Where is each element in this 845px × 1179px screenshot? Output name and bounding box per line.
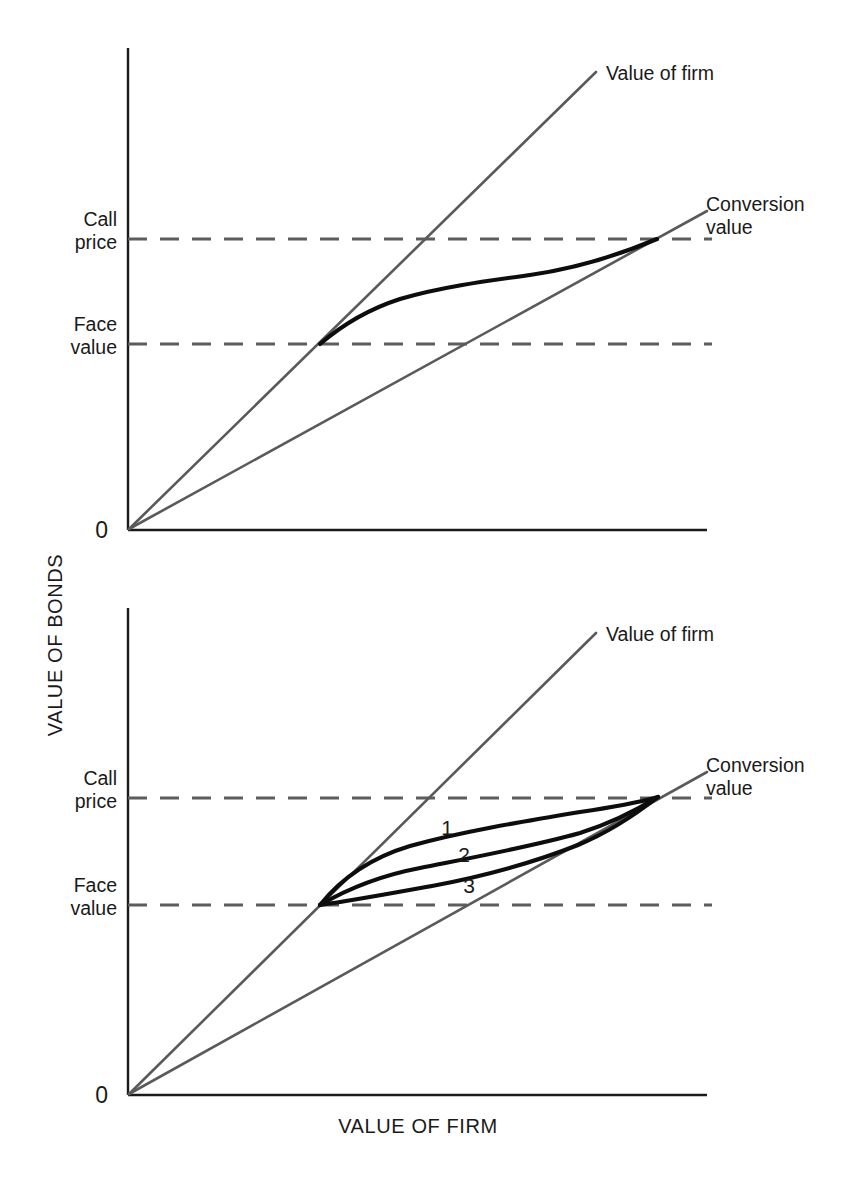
bottom-panel-curve-label-2: 2	[458, 843, 470, 866]
top-panel-value-of-firm-label: Value of firm	[606, 62, 714, 84]
bottom-panel-call-price-label-line2: price	[75, 790, 117, 812]
bottom-panel: 1 2 3 0 Call price Face value Value of f…	[70, 608, 804, 1108]
bottom-panel-origin-label: 0	[95, 1082, 108, 1108]
top-panel-origin-label: 0	[95, 517, 108, 543]
bottom-panel-conversion-value-label-line2: value	[706, 777, 753, 799]
x-axis-title: VALUE OF FIRM	[338, 1115, 498, 1137]
bottom-panel-value-of-firm-label: Value of firm	[606, 623, 714, 645]
top-panel-call-price-label-line1: Call	[83, 208, 117, 230]
bottom-panel-curve-1	[320, 797, 658, 905]
top-panel-value-of-firm-line	[129, 72, 596, 529]
bottom-panel-curve-label-1: 1	[441, 816, 453, 839]
y-axis-title: VALUE OF BONDS	[44, 554, 66, 737]
bottom-panel-call-price-label-line1: Call	[83, 767, 117, 789]
convertible-bond-value-figure: 0 Call price Face value Value of firm Co…	[0, 0, 845, 1179]
figure-page: 0 Call price Face value Value of firm Co…	[0, 0, 845, 1179]
top-panel-conversion-value-label-line2: value	[706, 216, 753, 238]
top-panel-conversion-value-line	[129, 211, 707, 529]
top-panel-face-value-label-line1: Face	[74, 313, 117, 335]
bottom-panel-curve-2	[320, 797, 658, 905]
bottom-panel-conversion-value-label-line1: Conversion	[706, 754, 805, 776]
top-panel: 0 Call price Face value Value of firm Co…	[70, 48, 804, 543]
bottom-panel-conversion-value-line	[129, 772, 707, 1094]
top-panel-conversion-value-label-line1: Conversion	[706, 193, 805, 215]
bottom-panel-curve-label-3: 3	[463, 874, 475, 897]
top-panel-face-value-label-line2: value	[70, 336, 117, 358]
bottom-panel-face-value-label-line2: value	[70, 897, 117, 919]
bottom-panel-curve-3	[320, 797, 658, 905]
bottom-panel-face-value-label-line1: Face	[74, 874, 117, 896]
top-panel-call-price-label-line2: price	[75, 231, 117, 253]
